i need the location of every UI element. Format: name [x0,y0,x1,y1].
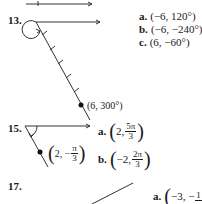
problem-15-number: 15. [8,122,22,134]
problem-17-figure [92,183,133,204]
problem-13-answers: a.(−6, 120°) b.(−6, −240°) c.(6, −60°) [139,10,202,49]
answer-15b: b.(−2, 2π3 ) [98,147,151,171]
answer-15a: a.(2, 5π3 ) [98,119,144,143]
previous-problem-ray [26,1,92,6]
problem-13-point-label: (6, 300°) [87,100,123,111]
point-15 [38,150,43,155]
answer-13b: b.(−6, −240°) [139,23,202,36]
problem-13-number: 13. [8,14,22,26]
problem-17-number: 17. [8,180,22,192]
answer-13a: a.(−6, 120°) [139,10,202,23]
point-13 [79,103,84,108]
answer-13c: c.(6, −60°) [139,36,202,49]
answer-17a: a.(−3, − 1 [153,184,202,204]
problem-15-point-label: (2, − π3 ) [48,141,86,165]
